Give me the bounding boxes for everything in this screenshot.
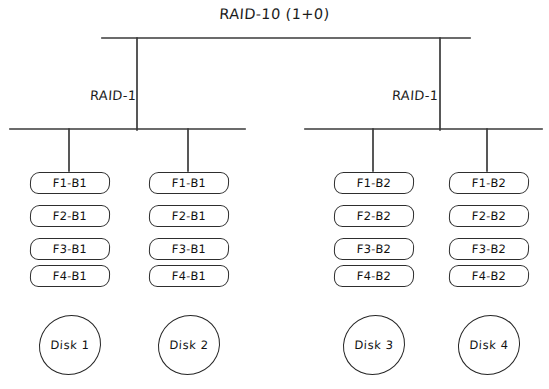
disk-2: Disk 2 [156, 315, 221, 375]
block-c3-f3: F3-B2 [333, 238, 414, 260]
block-c1-f1: F1-B1 [29, 172, 110, 194]
diagram-title: RAID-10 (1+0) [0, 6, 549, 22]
disk-1: Disk 1 [37, 315, 102, 375]
block-c1-f3: F3-B1 [29, 238, 110, 260]
block-c4-f1: F1-B2 [448, 172, 529, 194]
block-c3-f4: F4-B2 [333, 265, 414, 287]
block-c1-f2: F2-B1 [29, 205, 110, 227]
block-c2-f2: F2-B1 [148, 205, 229, 227]
block-c2-f4: F4-B1 [148, 265, 229, 287]
block-c4-f3: F3-B2 [448, 238, 529, 260]
raid-10-diagram: RAID-10 (1+0) RAID-1 RAID-1 F1-B1 F2-B1 … [0, 0, 549, 389]
block-c2-f3: F3-B1 [148, 238, 229, 260]
block-c3-f2: F2-B2 [333, 205, 414, 227]
disk-3: Disk 3 [341, 315, 406, 375]
raid1-label-left: RAID-1 [89, 88, 137, 103]
disk-4: Disk 4 [456, 315, 521, 375]
block-c4-f2: F2-B2 [448, 205, 529, 227]
block-c2-f1: F1-B1 [148, 172, 229, 194]
block-c4-f4: F4-B2 [448, 265, 529, 287]
block-c3-f1: F1-B2 [333, 172, 414, 194]
raid1-label-right: RAID-1 [391, 88, 439, 103]
block-c1-f4: F4-B1 [29, 265, 110, 287]
